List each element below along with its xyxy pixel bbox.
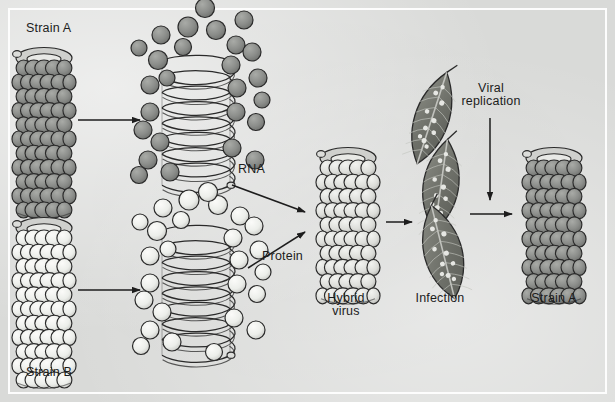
rna-helix-strain-b [132, 183, 271, 367]
figure-canvas: Strain A Strain B RNA Protein Hybrid vir… [0, 0, 615, 402]
virus-strain-a-progeny [522, 148, 586, 305]
tmv-reconstitution-diagram [0, 0, 615, 402]
label-infection: Infection [404, 292, 476, 305]
label-strain-b-start: Strain B [26, 366, 72, 379]
label-rna: RNA [238, 163, 265, 176]
label-strain-a-end: Strain A [518, 292, 590, 305]
virus-strain-a [12, 48, 76, 219]
virus-strain-b [12, 218, 76, 389]
leaf [401, 58, 466, 169]
label-hybrid-virus: Hybrid virus [310, 292, 382, 318]
label-protein: Protein [262, 250, 303, 263]
hybrid-virus [316, 148, 380, 305]
label-strain-a-start: Strain A [26, 22, 71, 35]
label-viral-replication: Viral replication [452, 82, 530, 108]
